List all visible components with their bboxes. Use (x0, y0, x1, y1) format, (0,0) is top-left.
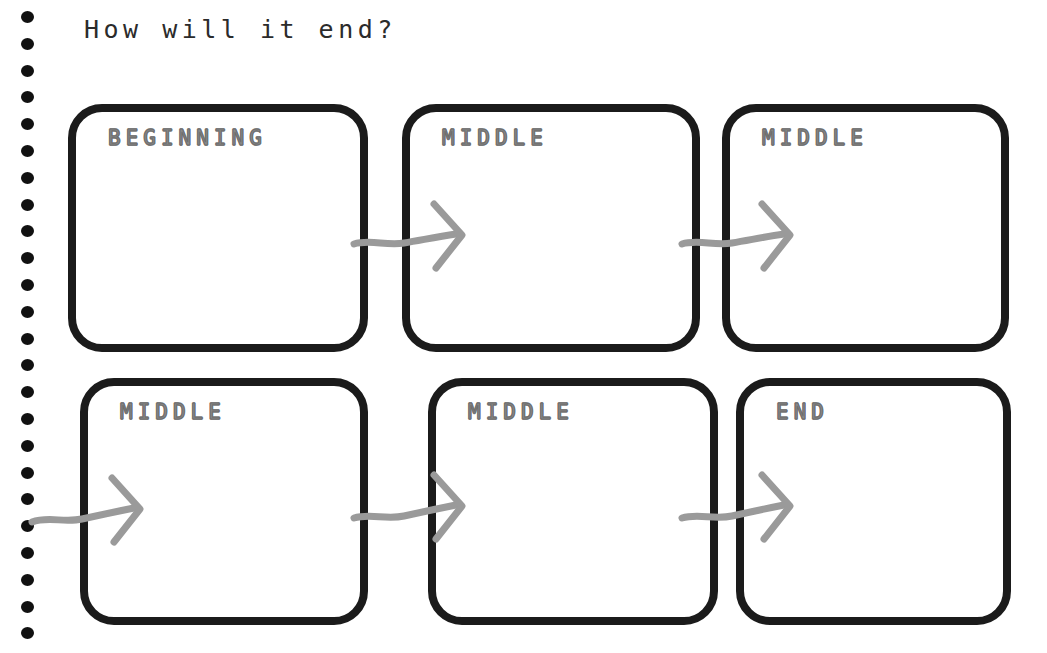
binding-hole (21, 11, 34, 23)
binding-hole (21, 386, 34, 398)
binding-hole (21, 574, 34, 586)
story-cell-6[interactable]: END (736, 378, 1011, 625)
story-cell-1[interactable]: BEGINNING (68, 104, 368, 352)
binding-hole (21, 413, 34, 425)
page-title: How will it end? (84, 15, 397, 44)
binding-hole (21, 279, 34, 291)
binding-hole (21, 547, 34, 559)
binding-hole (21, 91, 34, 103)
story-cell-label: MIDDLE (442, 128, 548, 149)
binding-hole (21, 172, 34, 184)
worksheet-page: How will it end? BEGINNING MIDDLE MIDDLE… (0, 0, 1047, 653)
binding-hole (21, 65, 34, 77)
story-cell-label: MIDDLE (468, 402, 574, 423)
binding-hole (21, 493, 34, 505)
binding-hole (21, 252, 34, 264)
spiral-binding (0, 0, 56, 653)
story-cell-label: BEGINNING (108, 128, 267, 149)
binding-hole (21, 601, 34, 613)
story-cell-3[interactable]: MIDDLE (722, 104, 1009, 352)
binding-hole (21, 38, 34, 50)
binding-hole (21, 467, 34, 479)
story-cell-label: MIDDLE (120, 402, 226, 423)
binding-hole (21, 359, 34, 371)
binding-hole (21, 225, 34, 237)
binding-hole (21, 627, 34, 639)
story-cell-4[interactable]: MIDDLE (80, 378, 368, 625)
story-cell-label: END (776, 402, 829, 423)
story-cell-2[interactable]: MIDDLE (402, 104, 700, 352)
binding-hole (21, 440, 34, 452)
binding-hole (21, 118, 34, 130)
binding-hole (21, 333, 34, 345)
binding-hole (21, 520, 34, 532)
binding-hole (21, 145, 34, 157)
story-cell-5[interactable]: MIDDLE (428, 378, 718, 625)
binding-hole (21, 306, 34, 318)
story-cell-label: MIDDLE (762, 128, 868, 149)
binding-hole (21, 199, 34, 211)
